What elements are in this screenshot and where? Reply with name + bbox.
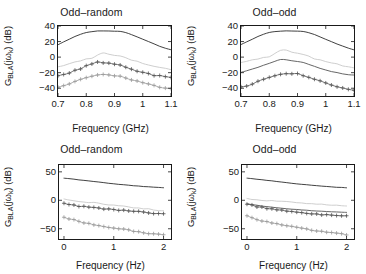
y-tick-label: 40 <box>227 21 238 31</box>
x-axis-label: Frequency (GHz) <box>223 123 364 134</box>
x-tick-label: 0 <box>244 242 249 252</box>
panel-bottom-right: Odd–odd GBLA(jωk) (dB) 500−50012 Frequen… <box>183 137 366 274</box>
chart-svg <box>58 26 171 96</box>
y-tick-label: 20 <box>44 37 55 47</box>
plot-area: 500−50012 <box>241 164 355 240</box>
x-tick-label: 0.9 <box>108 99 121 109</box>
series-markers <box>245 214 349 237</box>
series-markers <box>62 201 166 215</box>
x-tick-label: 1 <box>323 99 328 109</box>
chart-svg <box>241 26 354 96</box>
x-axis-label: Frequency (Hz) <box>223 260 364 271</box>
x-tick-label: 0.9 <box>291 99 304 109</box>
x-tick-label: 2 <box>161 242 166 252</box>
x-tick-label: 0.8 <box>80 99 93 109</box>
panel-title: Odd–random <box>0 143 183 155</box>
panel-top-right: Odd–odd GBLA(jωk) (dB) 40200−20−400.70.8… <box>183 0 366 137</box>
series-line <box>247 198 347 206</box>
plot-area: 40200−20−400.70.80.911.1 <box>57 25 172 97</box>
axis-ticks <box>242 165 354 239</box>
series-line <box>241 31 354 50</box>
y-tick-label: −50 <box>40 224 56 234</box>
y-tick-label: −20 <box>39 68 55 78</box>
panel-title: Odd–random <box>0 6 183 18</box>
y-axis-label: GBLA(jωk) (dB) <box>2 8 16 104</box>
panel-top-left: Odd–random GBLA(jωk) (dB) 40200−20−400.7… <box>0 0 183 137</box>
x-tick-label: 1 <box>111 242 116 252</box>
x-tick-label: 2 <box>344 242 349 252</box>
chart-svg <box>242 165 354 239</box>
y-tick-label: 0 <box>50 52 55 62</box>
x-tick-label: 1.1 <box>347 99 360 109</box>
y-tick-label: 0 <box>234 196 239 206</box>
y-tick-label: 0 <box>233 52 238 62</box>
y-tick-label: −40 <box>39 83 55 93</box>
y-tick-label: 50 <box>45 167 56 177</box>
x-tick-label: 0.8 <box>263 99 276 109</box>
y-tick-label: 20 <box>227 37 238 47</box>
series-line <box>241 50 354 68</box>
y-tick-label: 0 <box>51 196 56 206</box>
figure-container: Odd–random GBLA(jωk) (dB) 40200−20−400.7… <box>0 0 366 274</box>
panel-title: Odd–odd <box>183 6 366 18</box>
x-axis-label: Frequency (GHz) <box>40 123 181 134</box>
series-markers <box>56 72 173 90</box>
y-axis-label: GBLA(jωk) (dB) <box>185 8 199 104</box>
x-tick-label: 0 <box>61 242 66 252</box>
panel-title: Odd–odd <box>183 143 366 155</box>
x-tick-label: 1 <box>294 242 299 252</box>
plot-area: 40200−20−400.70.80.911.1 <box>240 25 355 97</box>
x-tick-label: 0.7 <box>234 99 247 109</box>
plot-area: 500−50012 <box>58 164 172 240</box>
series-markers <box>245 202 349 218</box>
series-line <box>58 53 171 70</box>
x-tick-label: 1.1 <box>164 99 177 109</box>
y-tick-label: −40 <box>222 83 238 93</box>
series-line <box>247 178 347 188</box>
y-tick-label: 40 <box>44 21 55 31</box>
x-axis-label: Frequency (Hz) <box>40 260 181 271</box>
y-tick-label: −50 <box>223 224 239 234</box>
x-tick-label: 0.7 <box>51 99 64 109</box>
series-line <box>64 178 164 188</box>
y-axis-label: GBLA(jωk) (dB) <box>185 149 199 245</box>
y-axis-label: GBLA(jωk) (dB) <box>2 149 16 245</box>
panel-bottom-left: Odd–random GBLA(jωk) (dB) 500−50012 Freq… <box>0 137 183 274</box>
series-line <box>58 31 171 50</box>
x-tick-label: 1 <box>140 99 145 109</box>
series-markers <box>62 215 166 237</box>
chart-svg <box>59 165 171 239</box>
y-tick-label: 50 <box>228 167 239 177</box>
y-tick-label: −20 <box>222 68 238 78</box>
